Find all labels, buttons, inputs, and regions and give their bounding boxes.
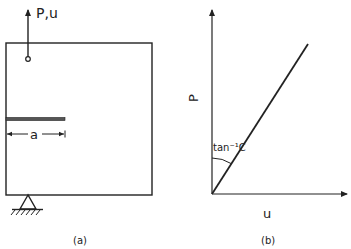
angle-label: tan⁻¹C [213, 142, 246, 153]
crack-length-dimension: a [7, 127, 65, 142]
y-axis-label: P [186, 94, 201, 102]
figure-canvas: P,u a (a) tan⁻¹C P [0, 0, 351, 249]
angle-arc [212, 158, 231, 164]
crack-length-label: a [30, 127, 38, 142]
caption-a: (a) [73, 235, 87, 246]
pin-support-icon [11, 195, 43, 215]
load-displacement-plot: tan⁻¹C P u (b) [186, 10, 347, 246]
load-pin [26, 57, 31, 62]
crack [6, 118, 65, 121]
x-axis-label: u [263, 206, 271, 221]
compliance-line [212, 44, 308, 194]
specimen-diagram: P,u a (a) [6, 5, 152, 246]
load-label: P,u [36, 5, 58, 21]
caption-b: (b) [261, 235, 275, 246]
